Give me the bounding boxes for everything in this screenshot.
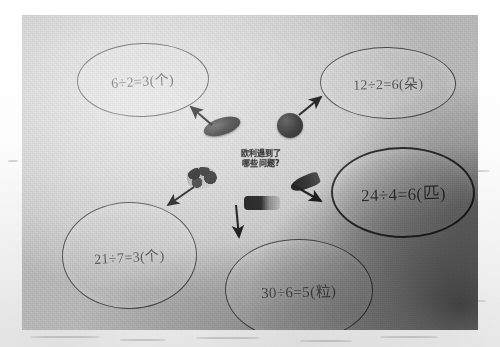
bubble-equation-right: 24÷4=6(匹): [331, 146, 476, 238]
margin-speck: [380, 336, 438, 338]
screenshot-root: 6÷2=3(个) 12÷2=6(朵) 24÷4=6(匹) 21÷7=3(个) 3…: [0, 0, 500, 347]
bubble-equation-bottom-center: 30÷6=5(粒): [224, 238, 373, 330]
equation-text: 6÷2=3(个): [111, 68, 175, 92]
equation-text: 30÷6=5(粒): [261, 278, 337, 301]
dark-round-object: [277, 113, 303, 138]
center-prompt-line-2: 哪些问题?: [225, 159, 297, 169]
dark-bar-object: [244, 196, 280, 210]
arrow-to-bottom-left: [168, 187, 194, 205]
arrow-to-bottom-center: [236, 205, 239, 237]
center-prompt-line-1: 欧利遇到了: [225, 149, 297, 159]
center-prompt: 欧利遇到了 哪些问题?: [225, 149, 297, 169]
photograph: 6÷2=3(个) 12÷2=6(朵) 24÷4=6(匹) 21÷7=3(个) 3…: [22, 15, 478, 330]
margin-speck: [120, 339, 166, 341]
dark-elongated-object: [289, 171, 322, 194]
margin-speck: [30, 336, 100, 338]
equation-text: 24÷4=6(匹): [360, 179, 446, 207]
margin-speck: [8, 160, 18, 162]
dark-cluster-object: [186, 165, 218, 190]
arrow-to-top-right: [299, 97, 321, 115]
bubble-equation-top-left: 6÷2=3(个): [76, 41, 210, 118]
equation-text: 12÷2=6(朵): [353, 72, 424, 93]
margin-speck: [300, 340, 352, 342]
equation-text: 21÷7=3(个): [94, 244, 166, 268]
bubble-equation-top-right: 12÷2=6(朵): [319, 46, 456, 120]
dark-oval-object: [201, 113, 242, 141]
bubble-equation-bottom-left: 21÷7=3(个): [61, 201, 198, 310]
margin-speck: [196, 337, 260, 339]
